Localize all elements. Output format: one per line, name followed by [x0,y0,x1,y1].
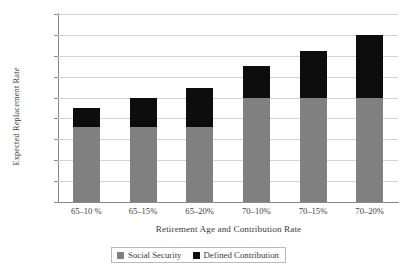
gridline [58,56,398,57]
bar-segment-social-security [73,127,100,202]
legend-swatch-icon-defined-contribution [193,252,200,259]
x-tick-label: 70–20% [330,206,410,216]
legend-label-defined-contribution: Defined Contribution [204,250,280,260]
bar-segment-social-security [243,98,270,202]
bar-segment-defined-contribution [356,35,383,98]
bar-segment-social-security [186,127,213,202]
x-axis-line [58,202,399,203]
bar-segment-defined-contribution [186,88,213,127]
gridline [58,160,398,161]
gridline [58,35,398,36]
gridline [58,98,398,99]
bar-segment-defined-contribution [243,66,270,97]
gridline [58,77,398,78]
bar-stack [300,51,327,202]
stacked-bar-chart: Expected Replacement Rate 0%10%20%30%40%… [0,0,410,273]
bar-stack [130,98,157,202]
gridline [58,14,398,15]
legend: Social Security Defined Contribution [111,247,286,263]
bar-stack [186,88,213,202]
bar-segment-social-security [130,127,157,202]
plot-area [58,14,398,202]
legend-label-social-security: Social Security [128,250,182,260]
bar-segment-social-security [356,98,383,202]
legend-item-defined-contribution: Defined Contribution [193,250,280,260]
legend-swatch-icon-social-security [117,252,124,259]
bar-stack [73,108,100,202]
bar-stack [243,66,270,202]
gridline [58,181,398,182]
y-axis-title: Expected Replacement Rate [12,27,21,207]
gridline [58,139,398,140]
bar-segment-defined-contribution [300,51,327,98]
gridline [58,118,398,119]
bar-segment-defined-contribution [130,98,157,127]
y-tick-mark [54,202,58,203]
bar-segment-social-security [300,98,327,202]
bar-stack [356,35,383,202]
x-axis-title: Retirement Age and Contribution Rate [58,224,399,234]
legend-item-social-security: Social Security [117,250,182,260]
bar-segment-defined-contribution [73,108,100,127]
